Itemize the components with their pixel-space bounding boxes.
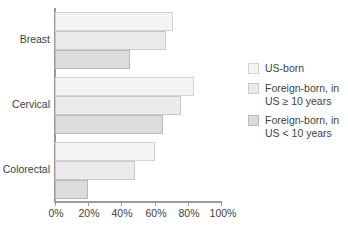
x-tick-label-4: 80%	[178, 207, 199, 219]
legend-label-us-born: US-born	[265, 62, 346, 75]
legend-label-foreign-lt-10: Foreign-born, in US < 10 years	[265, 114, 346, 139]
x-tick-label-0: 0%	[48, 207, 63, 219]
legend-label-foreign-ge-10: Foreign-born, in US ≥ 10 years	[265, 82, 346, 107]
bar-colorectal-us-born	[55, 142, 155, 161]
bar-cervical-foreign-ge-10	[55, 96, 181, 115]
bar-breast-foreign-ge-10	[55, 31, 166, 50]
legend: US-born Foreign-born, in US ≥ 10 years F…	[248, 62, 346, 146]
bar-cervical-us-born	[55, 77, 194, 96]
x-tick-3	[155, 202, 156, 206]
category-label-colorectal: Colorectal	[0, 163, 50, 175]
bar-breast-us-born	[55, 12, 173, 31]
x-tick-label-1: 20%	[78, 207, 99, 219]
legend-swatch-icon-us-born	[248, 63, 259, 74]
category-label-cervical: Cervical	[0, 98, 50, 110]
bar-cervical-foreign-lt-10	[55, 115, 163, 134]
x-tick-label-2: 40%	[111, 207, 132, 219]
legend-item-foreign-lt-10: Foreign-born, in US < 10 years	[248, 114, 346, 139]
bar-chart: 0% 20% 40% 60% 80% 100% Breast Cervical …	[0, 0, 348, 233]
x-tick-0	[55, 202, 56, 206]
x-tick-5	[221, 202, 222, 206]
legend-item-us-born: US-born	[248, 62, 346, 75]
x-tick-2	[121, 202, 122, 206]
legend-item-foreign-ge-10: Foreign-born, in US ≥ 10 years	[248, 82, 346, 107]
x-tick-label-5: 100%	[210, 207, 237, 219]
legend-swatch-icon-foreign-ge-10	[248, 83, 259, 94]
x-tick-1	[88, 202, 89, 206]
bar-colorectal-foreign-ge-10	[55, 161, 135, 180]
bar-breast-foreign-lt-10	[55, 50, 130, 69]
legend-swatch-icon-foreign-lt-10	[248, 115, 259, 126]
x-axis-line	[54, 201, 222, 203]
x-tick-4	[188, 202, 189, 206]
x-tick-label-3: 60%	[145, 207, 166, 219]
category-label-breast: Breast	[0, 33, 50, 45]
bar-colorectal-foreign-lt-10	[55, 180, 88, 199]
